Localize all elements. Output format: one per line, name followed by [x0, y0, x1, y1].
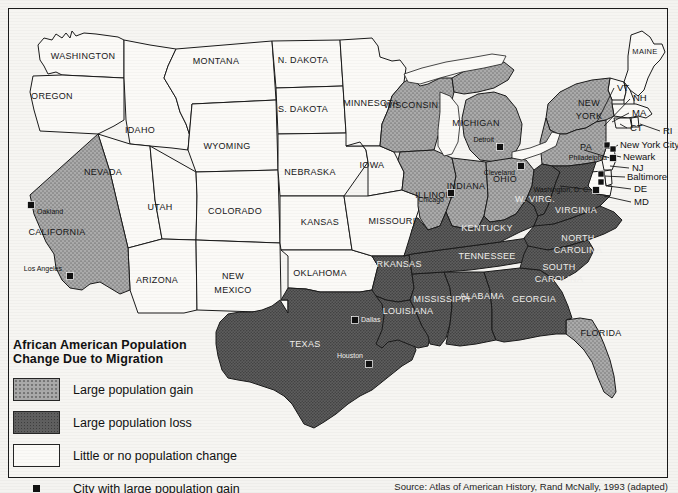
state-label: NEBRASKA [284, 167, 335, 177]
state-label: CALIFORNIA [28, 227, 85, 237]
city-label: Los Angeles [24, 265, 63, 273]
map-legend: African American Population Change Due t… [13, 338, 325, 493]
state-label: SOUTH [543, 262, 576, 272]
legend-title: African American Population Change Due t… [13, 338, 325, 366]
state-label: MICHIGAN [452, 118, 499, 128]
city-label: Washington, D. C. [533, 186, 590, 194]
state-label: NEW [222, 271, 244, 281]
northeast-label: RI [663, 125, 673, 136]
state-label: NEVADA [84, 167, 122, 177]
northeast-label: Baltimore [627, 171, 667, 182]
northeast-label: New York City [620, 139, 678, 150]
state-label: CAROLINA [554, 245, 602, 255]
city-marker-icon[interactable] [67, 273, 74, 280]
state-arkansas [372, 248, 414, 302]
city-marker-icon[interactable] [448, 190, 455, 197]
city-marker-icon[interactable] [604, 142, 610, 148]
state-label: ARKANSAS [370, 259, 421, 269]
state-label: OKLAHOMA [293, 268, 346, 278]
legend-swatch-gain-icon [13, 378, 60, 401]
state-label: LOUISIANA [383, 306, 434, 316]
source-credit: Source: Atlas of American History, Rand … [0, 481, 678, 492]
state-maine [624, 31, 665, 96]
legend-item-none[interactable]: Little or no population change [13, 439, 325, 472]
legend-title-line2: Change Due to Migration [13, 352, 163, 366]
legend-item-gain[interactable]: Large population gain [13, 373, 325, 406]
legend-label-gain: Large population gain [73, 383, 193, 397]
state-label: WASHINGTON [51, 51, 116, 61]
legend-label-none: Little or no population change [73, 449, 237, 463]
city-label: Cleveland [484, 169, 515, 176]
state-label: W. VIRG. [515, 194, 555, 204]
city-marker-icon[interactable] [497, 144, 504, 151]
state-wyoming [188, 100, 278, 172]
city-marker-icon[interactable] [593, 187, 600, 194]
city-marker-icon[interactable] [610, 155, 617, 162]
state-label: KANSAS [301, 217, 339, 227]
state-label: CAROLINA [535, 274, 583, 284]
state-label: IDAHO [125, 125, 155, 135]
state-oregon [30, 75, 124, 134]
city-label: Philadelphia [569, 154, 607, 162]
state-michigan [452, 62, 522, 162]
state-label: FLORIDA [580, 328, 621, 338]
city-label: Detroit [473, 136, 494, 143]
state-label: MEXICO [214, 285, 251, 295]
state-label: GEORGIA [512, 294, 556, 304]
state-label: MAINE [632, 47, 657, 56]
city-label: Dallas [361, 316, 381, 323]
state-label: MISSOURI [369, 216, 416, 226]
state-label: VIRGINIA [555, 205, 597, 215]
city-label: Chicago [418, 196, 444, 204]
state-label: TENNESSEE [458, 251, 515, 261]
city-marker-icon[interactable] [28, 202, 35, 209]
state-label: IOWA [360, 160, 385, 170]
northeast-label: Newark [623, 151, 655, 162]
state-label: OREGON [31, 91, 73, 101]
state-label: COLORADO [208, 206, 262, 216]
northeast-label: VT [617, 82, 629, 93]
northeast-label: MD [634, 196, 649, 207]
state-label: MISSISSIPPI [414, 294, 471, 304]
city-marker-icon[interactable] [610, 146, 616, 152]
city-marker-icon[interactable] [352, 317, 359, 324]
state-label: OHIO [493, 174, 517, 184]
state-label: S. DAKOTA [278, 104, 328, 114]
legend-swatch-loss-icon [13, 411, 60, 434]
legend-item-loss[interactable]: Large population loss [13, 406, 325, 439]
city-label: Oakland [37, 208, 63, 215]
legend-label-loss: Large population loss [73, 416, 192, 430]
northeast-label: CT [630, 122, 643, 133]
legend-swatch-none-icon [13, 444, 60, 467]
city-marker-icon[interactable] [366, 361, 373, 368]
legend-title-line1: African American Population [13, 338, 187, 352]
northeast-label: MA [632, 107, 647, 118]
map-page: WASHINGTONOREGONIDAHOMONTANAWYOMINGNEVAD… [0, 0, 678, 493]
state-label: WYOMING [203, 141, 250, 151]
state-label: MINNESOTA [343, 98, 399, 108]
state-label: MONTANA [193, 56, 239, 66]
state-label: NORTH [561, 233, 594, 243]
state-label: KENTUCKY [461, 223, 512, 233]
city-marker-icon[interactable] [598, 179, 604, 185]
city-label: Houston [337, 352, 363, 359]
city-marker-icon[interactable] [518, 163, 525, 170]
state-label: NEW [578, 98, 600, 108]
state-label: UTAH [147, 202, 172, 212]
city-marker-icon[interactable] [598, 171, 604, 177]
northeast-label: DE [634, 183, 647, 194]
state-label: N. DAKOTA [278, 55, 329, 65]
northeast-label: NH [633, 92, 647, 103]
state-label: ARIZONA [136, 275, 178, 285]
